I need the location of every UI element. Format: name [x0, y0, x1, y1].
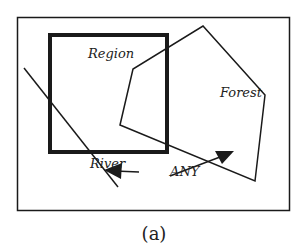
forest-polygon — [120, 26, 265, 181]
outer-frame — [18, 18, 290, 211]
spatial-diagram: Region Forest River ANY (a) — [0, 0, 308, 250]
any-label: ANY — [169, 164, 201, 179]
region-label: Region — [87, 46, 134, 61]
caption: (a) — [142, 223, 167, 244]
forest-label: Forest — [219, 85, 263, 100]
river-label: River — [89, 156, 126, 171]
